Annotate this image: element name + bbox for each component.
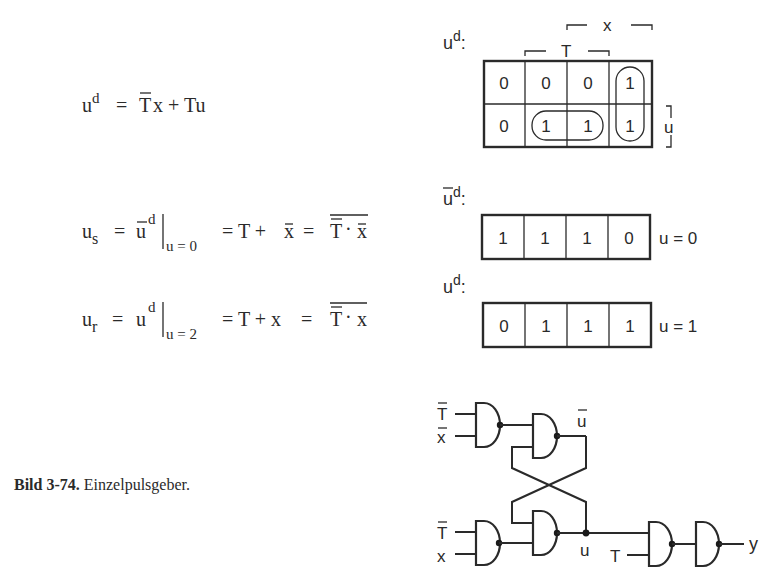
eq-ur-tdbl: T [330,308,342,330]
eq-us-xbar: x [284,220,294,242]
eq-us-mid: = T + [222,220,271,242]
output-label-ubar: u [577,412,586,431]
eq-us-dot: · [345,218,352,240]
svg-text:ud:: ud: [443,272,466,297]
eq-ur-sup: d [148,299,156,315]
kmap-u1: ud: 0 1 1 1 u = 1 [443,272,697,347]
kmap-label-colon: : [461,33,466,53]
kmap-cell: 0 [499,117,508,136]
input-label-tbar: T [437,405,447,424]
input-label-t: T [610,547,620,566]
kmap-u0-cell: 1 [582,229,591,248]
eq-ur-x: x [357,308,367,330]
eq-us-lhs: u [82,220,92,242]
eq-us-eval: u = 0 [166,238,197,254]
eq-ur-u: u [136,308,146,330]
kmap-u0: ud: 1 1 1 0 u = 0 [443,184,697,259]
input-label-xbar: x [437,428,446,447]
svg-text:ur: ur [82,308,98,335]
nand-gate-1 [476,403,500,447]
eq-ur-eq3: = [301,308,312,330]
input-label-tbar: T [437,524,447,543]
eq-ud-rest: x + Tu [153,94,205,116]
kmap-u0-cell: 1 [498,229,507,248]
kmap-u0-label: u [443,189,453,209]
kmap-u0-cell: 1 [540,229,549,248]
eq-ud-sup: d [92,90,100,106]
eq-us-sup: d [148,211,156,227]
eq-ud-tbar: T [139,94,151,116]
kmap-col-label-t: T [561,42,571,61]
nand-gate-5 [649,522,672,566]
eq-ur-sub: r [92,318,98,335]
eq-ud-equals: = [116,94,127,116]
eq-ur-eq1: = [112,308,123,330]
eq-ur-dot: · [345,306,352,328]
equation-ur: ur = u d u = 2 = T + x = T · x [82,299,367,342]
kmap-u0-colon: : [461,189,466,209]
junction-dot [583,530,590,537]
bracket-x [631,25,652,30]
equation-us: us = u d u = 0 = T + x = T · x [82,211,368,254]
diagram-canvas: ud = T x + Tu us = u d u = 0 = T + x = T… [0,0,766,586]
kmap-cell: 1 [625,117,634,136]
kmap-label-sup: d [453,28,461,44]
bracket-u [666,106,671,118]
kmap-cell: 1 [541,117,550,136]
caption-number: Bild 3-74. [14,476,80,493]
eq-us-sub: s [92,230,98,247]
kmap-u1-cell: 0 [499,317,508,336]
eq-ur-lhs: u [82,308,92,330]
kmap-u1-colon: : [461,277,466,297]
eq-us-xbar2: x [357,220,367,242]
bracket-x [567,25,587,30]
kmap-u1-cell: 1 [583,317,592,336]
kmap-cell: 1 [583,117,592,136]
kmap-row-label-u: u [664,118,673,137]
kmap-u0-sup: d [453,184,461,200]
equation-ud: ud = T x + Tu [82,90,205,116]
nand-gate-6 [696,522,719,566]
kmap-col-label-x: x [603,16,612,35]
eq-ur-mid: = T + x [222,308,281,330]
eq-ur-eval: u = 2 [166,326,197,342]
nand-gate-4 [533,511,557,555]
kmap-u0-cell: 0 [624,229,633,248]
eq-us-ubar: u [136,220,146,242]
kmap-u1-cell: 1 [625,317,634,336]
eq-ud-lhs: u [82,94,92,116]
kmap-label: u [443,33,453,53]
eq-us-eq3: = [303,220,314,242]
kmap-ud: ud: x T u 0 0 0 1 0 1 1 1 [443,16,673,147]
kmap-u1-sup: d [453,272,461,288]
eq-us-eq1: = [114,220,125,242]
nand-gate-2 [533,414,557,458]
kmap-cell: 1 [625,74,634,93]
kmap-u1-label: u [443,277,453,297]
output-label-u: u [580,541,589,560]
svg-text:ud: ud [82,90,100,116]
kmap-u1-cell: 1 [541,317,550,336]
figure-caption: Bild 3-74. Einzelpulsgeber. [14,476,190,494]
kmap-u0-condition: u = 0 [659,229,697,248]
bracket-t [588,51,609,56]
kmap-cell: 0 [499,74,508,93]
output-label-y: y [749,534,758,554]
caption-text: Einzelpulsgeber. [80,476,190,493]
kmap-cell: 0 [541,74,550,93]
kmap-cell: 0 [583,74,592,93]
svg-text:ud:: ud: [443,28,466,53]
svg-text:us: us [82,220,98,247]
eq-us-tdbl: T [330,220,342,242]
circuit: T x u T x u T [437,403,758,566]
input-label-x: x [437,547,446,566]
kmap-u1-condition: u = 1 [659,317,697,336]
bracket-t [525,51,546,56]
